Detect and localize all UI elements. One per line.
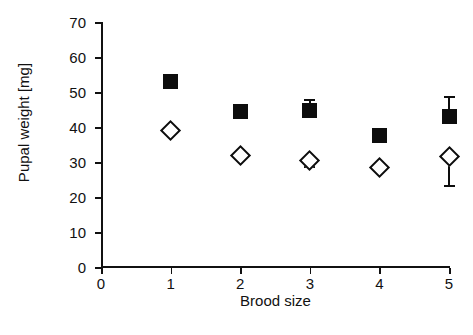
plot-area: 010203040506070 012345 <box>101 22 449 267</box>
y-tick-label: 50 <box>69 85 86 100</box>
marker-open-diamond <box>160 120 181 141</box>
x-tick-label: 3 <box>306 276 314 291</box>
x-tick <box>379 268 381 274</box>
x-tick-label: 4 <box>375 276 383 291</box>
y-tick-label: 40 <box>69 120 86 135</box>
x-axis-line <box>101 266 450 268</box>
error-bar-cap-lower <box>444 185 455 187</box>
x-tick <box>171 268 173 274</box>
marker-filled-square <box>442 109 457 124</box>
error-bar-cap-upper <box>444 96 455 98</box>
x-tick-label: 1 <box>166 276 174 291</box>
y-tick-label: 0 <box>78 260 86 275</box>
y-tick: 70 <box>95 22 101 24</box>
marker-open-diamond <box>438 146 459 167</box>
x-tick-label: 0 <box>97 276 105 291</box>
marker-open-diamond <box>299 150 320 171</box>
x-tick <box>101 268 103 274</box>
marker-filled-square <box>302 103 317 118</box>
chart-figure: Pupal weight [mg] Brood size 01020304050… <box>0 0 473 335</box>
y-axis-title: Pupal weight [mg] <box>14 0 34 245</box>
y-tick: 10 <box>95 232 101 234</box>
x-tick <box>310 268 312 274</box>
x-axis-title: Brood size <box>101 292 450 309</box>
marker-open-diamond <box>230 144 251 165</box>
y-tick-label: 10 <box>69 225 86 240</box>
y-tick: 60 <box>95 57 101 59</box>
y-tick: 20 <box>95 197 101 199</box>
marker-filled-square <box>233 104 248 119</box>
y-tick: 40 <box>95 127 101 129</box>
y-tick: 30 <box>95 162 101 164</box>
y-tick: 50 <box>95 92 101 94</box>
marker-filled-square <box>163 74 178 89</box>
x-tick-label: 5 <box>445 276 453 291</box>
y-tick-label: 60 <box>69 50 86 65</box>
x-tick <box>449 268 451 274</box>
marker-open-diamond <box>369 157 390 178</box>
y-tick-label: 70 <box>69 15 86 30</box>
y-tick-label: 20 <box>69 190 86 205</box>
y-tick-label: 30 <box>69 155 86 170</box>
error-bar-cap-upper <box>304 99 315 101</box>
x-tick-label: 2 <box>236 276 244 291</box>
x-tick <box>240 268 242 274</box>
marker-filled-square <box>372 128 387 143</box>
y-axis-line <box>101 22 103 268</box>
